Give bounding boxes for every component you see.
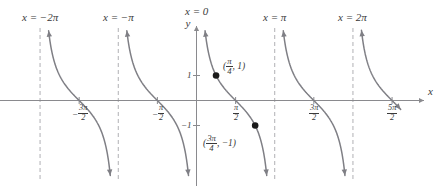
asymptote-label-pi: x = π <box>263 12 286 23</box>
cotangent-graph-figure: x = −2π x = −π x = 0 x = π x = 2π y x −3… <box>0 0 448 191</box>
x-tick-label-5pi-over-2: 5π2 <box>387 105 397 123</box>
y-tick-label-one: 1 <box>187 71 192 80</box>
graph-canvas <box>0 0 448 191</box>
asymptote-label-neg-2pi: x = −2π <box>22 12 58 23</box>
y-axis-label: y <box>186 18 191 29</box>
x-tick-label-neg-3pi-over-2: −3π2 <box>72 105 88 123</box>
axes-group <box>0 26 424 186</box>
x-tick-label-pi-over-2: π2 <box>233 105 239 123</box>
point-label-3pi-over-4-negative-one: (3π4, −1) <box>203 134 236 153</box>
x-tick-label-neg-pi-over-2: −π2 <box>152 105 164 123</box>
point-label-pi-over-4-one: (π4, 1) <box>223 57 245 76</box>
asymptote-label-2pi: x = 2π <box>338 12 367 23</box>
y-tick-label-negative-one: −1 <box>181 121 192 130</box>
x-tick-label-3pi-over-2: 3π2 <box>309 105 319 123</box>
curve-branches-group <box>47 30 401 175</box>
asymptote-label-zero: x = 0 <box>185 6 208 17</box>
asymptote-label-neg-pi: x = −π <box>103 12 134 23</box>
x-axis-label: x <box>428 86 433 97</box>
